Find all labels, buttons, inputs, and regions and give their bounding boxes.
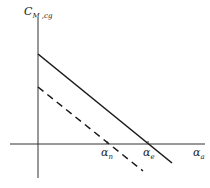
alpha-n-label: αn xyxy=(101,147,113,161)
y-axis-label: CM ,cg xyxy=(24,6,52,20)
x-axis-label: αa xyxy=(193,147,205,161)
dashed-moment-line xyxy=(38,87,143,171)
alpha-e-label: αe xyxy=(143,147,155,161)
